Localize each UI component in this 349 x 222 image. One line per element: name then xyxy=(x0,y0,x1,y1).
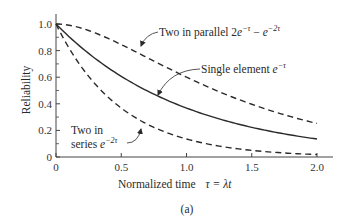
y-tick-label: 0.8 xyxy=(38,45,52,57)
y-tick-label: 0.4 xyxy=(38,98,52,110)
reliability-chart: 00.20.40.60.81.0 00.51.01.52.0 Two in pa… xyxy=(0,0,349,222)
annotation-series-line2: series e−2τ xyxy=(71,136,119,150)
x-axis-label: Normalized timeτ = λt xyxy=(118,178,232,190)
x-tick-label: 2.0 xyxy=(310,161,324,173)
x-ticks: 00.51.01.52.0 xyxy=(53,153,324,173)
x-tick-label: 1.0 xyxy=(180,161,194,173)
y-tick-label: 0 xyxy=(47,151,53,163)
arrow-parallel xyxy=(141,32,158,46)
y-tick-label: 0.2 xyxy=(38,124,52,136)
x-tick-label: 0 xyxy=(53,161,59,173)
arrow-series xyxy=(127,129,141,143)
x-tick-label: 0.5 xyxy=(114,161,128,173)
annotation-arrows xyxy=(127,32,200,143)
annotation-series-line1: Two in xyxy=(71,124,103,136)
annotation-single: Single element e−τ xyxy=(201,61,287,76)
y-axis-label: Reliability xyxy=(20,65,33,114)
annotation-parallel: Two in parallel 2e−τ − e−2τ xyxy=(159,24,281,39)
y-tick-label: 0.6 xyxy=(38,71,52,83)
y-ticks: 00.20.40.60.81.0 xyxy=(38,18,60,163)
y-tick-label: 1.0 xyxy=(38,18,52,30)
x-tick-label: 1.5 xyxy=(245,161,259,173)
figure-caption: (a) xyxy=(181,203,194,216)
curve-single-element xyxy=(56,24,317,139)
